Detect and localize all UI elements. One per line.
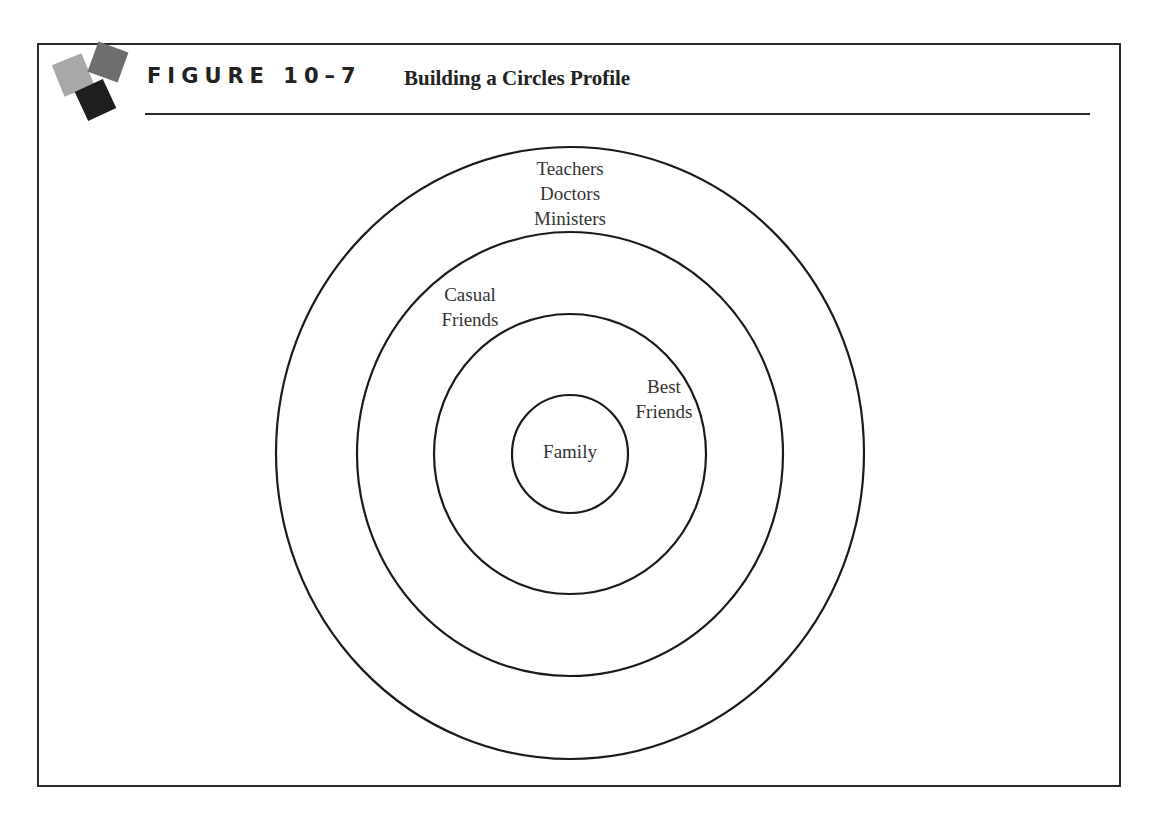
label-teachers-doctors-ministers: Teachers Doctors Ministers <box>510 156 630 231</box>
label-best-friends: Best Friends <box>624 374 704 424</box>
circles-diagram <box>0 0 1161 833</box>
label-family: Family <box>520 439 620 464</box>
label-casual-friends: Casual Friends <box>420 282 520 332</box>
